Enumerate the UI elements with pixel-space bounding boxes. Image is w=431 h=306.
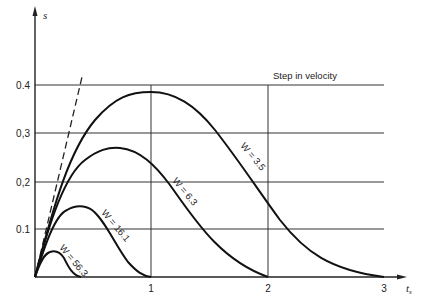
curve-w-3.5 bbox=[35, 92, 384, 277]
x-tick-3: 3 bbox=[381, 283, 387, 294]
x-axis-label: ts bbox=[406, 282, 412, 296]
y-axis-arrow-icon bbox=[33, 6, 38, 16]
y-axis-label: s bbox=[43, 9, 47, 21]
x-axis-arrow-icon bbox=[397, 275, 407, 280]
chart: 0.1 0,2 0,3 0.4 1 2 3 s ts Step in veloc… bbox=[0, 0, 431, 306]
y-tick-labels: 0.1 0,2 0,3 0.4 bbox=[16, 80, 30, 235]
y-tick-0.4: 0.4 bbox=[16, 80, 30, 91]
y-tick-0.3: 0,3 bbox=[16, 128, 30, 139]
grid bbox=[35, 85, 384, 277]
x-axis-label-sub: s bbox=[409, 288, 412, 296]
x-tick-labels: 1 2 3 bbox=[148, 283, 387, 294]
curves bbox=[35, 92, 384, 277]
y-tick-0.1: 0.1 bbox=[16, 224, 30, 235]
annotation-step-in-velocity: Step in velocity bbox=[273, 70, 337, 81]
y-tick-0.2: 0,2 bbox=[16, 177, 30, 188]
x-tick-1: 1 bbox=[148, 283, 154, 294]
x-tick-2: 2 bbox=[265, 283, 271, 294]
axes bbox=[33, 6, 408, 280]
